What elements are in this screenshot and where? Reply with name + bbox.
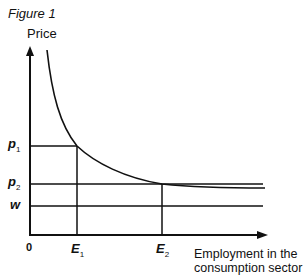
origin-label: 0 — [26, 241, 32, 253]
p2-label: p2 — [8, 174, 20, 192]
p1-label: p1 — [8, 136, 20, 154]
e1-label-text: E — [71, 241, 80, 256]
chart-canvas — [0, 0, 306, 277]
origin-label-text: 0 — [26, 241, 32, 253]
e2-label: E2 — [156, 241, 169, 259]
e1-label-sub: 1 — [80, 250, 84, 259]
price-curve — [47, 50, 265, 188]
y-axis-arrow-icon — [26, 46, 34, 56]
x-axis-label-line1: Employment in the — [194, 247, 302, 261]
e2-label-text: E — [156, 241, 165, 256]
p1-label-text: p — [8, 136, 16, 151]
e1-label: E1 — [71, 241, 84, 259]
p2-label-sub: 2 — [16, 183, 20, 192]
e2-label-sub: 2 — [165, 250, 169, 259]
x-axis-label: Employment in the consumption sector — [194, 247, 302, 275]
w-label: w — [10, 197, 20, 212]
p1-label-sub: 1 — [16, 145, 20, 154]
x-axis-label-line2: consumption sector — [194, 261, 302, 275]
x-axis-arrow-icon — [257, 231, 268, 239]
w-label-text: w — [10, 197, 20, 212]
p2-label-text: p — [8, 174, 16, 189]
